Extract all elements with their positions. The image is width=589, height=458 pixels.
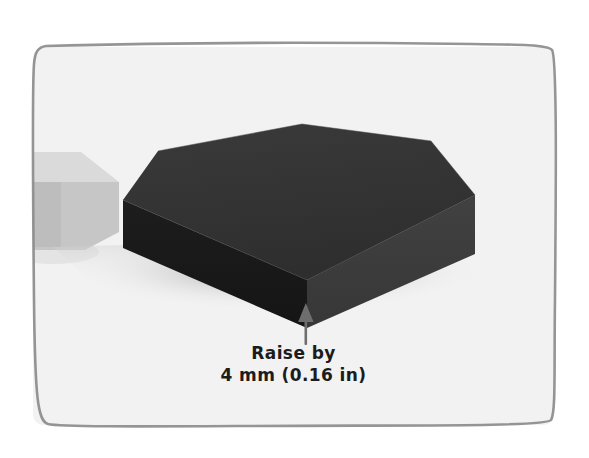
caption-line-2: 4 mm (0.16 in) — [33, 365, 554, 386]
illustration-stage: Raise by 4 mm (0.16 in) — [0, 0, 589, 458]
scene-viewport: Raise by 4 mm (0.16 in) — [33, 47, 554, 425]
caption-line-1: Raise by — [33, 343, 554, 364]
raise-annotation-caption: Raise by 4 mm (0.16 in) — [33, 343, 554, 386]
